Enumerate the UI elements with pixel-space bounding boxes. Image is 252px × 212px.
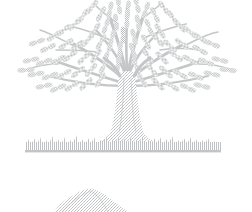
illustration-canvas: Pale grey watermark-style illustration o… <box>0 0 252 212</box>
tree-illustration <box>0 0 252 212</box>
